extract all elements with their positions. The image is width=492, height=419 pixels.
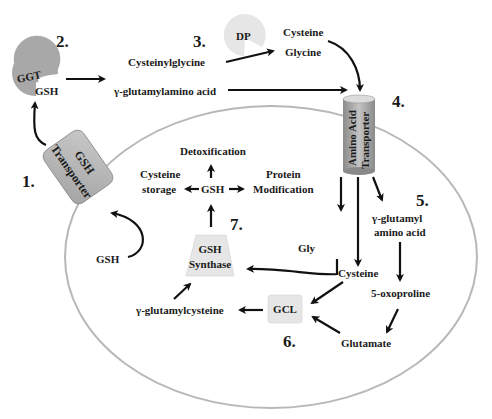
aa-transporter-line2: Transporter	[359, 112, 371, 169]
arrow-gly-to-synthase	[248, 259, 337, 274]
arrow-oxoproline-to-glutamate	[387, 309, 398, 332]
glycine-extracellular-label: Glycine	[285, 46, 321, 58]
gsh-synthase-line2: Synthase	[189, 258, 231, 270]
5-oxoproline-label: 5-oxoproline	[371, 287, 430, 299]
cell-membrane	[65, 106, 477, 408]
gsh-transporter: GSH Transporter	[40, 127, 116, 207]
gcl-label: GCL	[273, 303, 297, 315]
arrow-cys-gly-to-aa-transporter	[328, 41, 360, 90]
step-1-label: 1.	[22, 172, 35, 191]
arrow-transporter-to-gamma-glutamyl	[373, 177, 382, 200]
gsh-center-label: GSH	[201, 183, 225, 195]
gcl-enzyme: GCL	[268, 295, 302, 323]
arrow-cysgly-to-cys-gly	[226, 51, 273, 62]
cysteine-storage-line2: storage	[142, 183, 176, 195]
diagram-canvas: 1. 2. 3. 4. 5. 6. 7. GGT GSH DP Cysteiny…	[0, 0, 492, 419]
gamma-glutamylamino-acid-label: γ-glutamylamino acid	[113, 85, 216, 97]
step-7-label: 7.	[230, 215, 243, 234]
aa-transporter-line1: Amino Acid	[346, 110, 358, 166]
dp-enzyme: DP	[224, 14, 266, 56]
arrow-transporter-to-ggt	[34, 103, 46, 145]
gly-label: Gly	[298, 242, 316, 254]
protein-modification-line2: Modification	[253, 183, 314, 195]
cysteine-extracellular-label: Cysteine	[283, 26, 323, 38]
cysteine-storage-line1: Cysteine	[140, 168, 180, 180]
cysteinylglycine-label: Cysteinylglycine	[128, 56, 205, 68]
gamma-glutamyl-line2: amino acid	[374, 226, 426, 238]
gsh-synthase: GSH Synthase	[186, 235, 234, 276]
protein-modification-line1: Protein	[266, 168, 301, 180]
arrow-glutamate-to-gcl	[313, 317, 340, 333]
step-5-label: 5.	[416, 191, 429, 210]
glutamate-label: Glutamate	[341, 337, 391, 349]
dp-label: DP	[236, 30, 251, 42]
arrow-gsh-to-transporter	[112, 213, 143, 257]
gsh-at-ggt-label: GSH	[35, 85, 59, 97]
step-4-label: 4.	[392, 92, 405, 111]
step-6-label: 6.	[283, 332, 296, 351]
gamma-glutamyl-line1: γ-glutamyl	[371, 212, 422, 224]
amino-acid-transporter: Amino Acid Transporter	[343, 95, 375, 175]
gsh-intracellular-export-label: GSH	[96, 253, 120, 265]
arrow-gamma-glutamylcysteine-to-synthase	[174, 284, 190, 299]
detoxification-label: Detoxification	[180, 145, 246, 157]
arrow-cysteine-to-gcl	[312, 282, 343, 303]
step-3-label: 3.	[193, 32, 206, 51]
gamma-glutamylcysteine-label: γ-glutamylcysteine	[135, 304, 224, 316]
gsh-synthase-line1: GSH	[198, 243, 222, 255]
diagram-svg: 1. 2. 3. 4. 5. 6. 7. GGT GSH DP Cysteiny…	[0, 0, 492, 419]
step-2-label: 2.	[56, 32, 69, 51]
cysteine-intracellular-label: Cysteine	[338, 267, 378, 279]
